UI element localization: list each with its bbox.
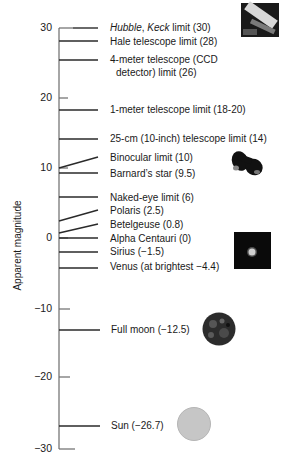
tick-label-20: 20: [22, 91, 52, 103]
tick-label-0: 0: [22, 231, 52, 243]
tick-label-10: 10: [22, 161, 52, 173]
hubble-telescope-image: [241, 1, 279, 37]
full-moon-image: [203, 313, 236, 346]
label-alpha-centauri: Alpha Centauri (0): [110, 233, 191, 244]
label-polaris: Polaris (2.5): [110, 205, 164, 216]
tick-label-neg10: −10: [22, 302, 52, 314]
label-full-moon: Full moon (−12.5): [111, 324, 190, 335]
label-hubble-italic: Hubble: [110, 22, 142, 33]
label-keck-italic: Keck: [147, 22, 169, 33]
tick-label-30: 30: [22, 21, 52, 33]
label-sirius: Sirius (−1.5): [110, 246, 164, 257]
sun-image: [178, 408, 211, 441]
label-4meter-line1: 4-meter telescope (CCD: [110, 54, 218, 65]
label-25cm: 25-cm (10-inch) telescope limit (14): [110, 133, 267, 144]
label-naked-eye: Naked-eye limit (6): [110, 192, 194, 203]
label-venus: Venus (at brightest −4.4): [110, 261, 219, 272]
tick-label-neg30: −30: [22, 442, 52, 454]
label-hubble-keck: Hubble, Keck limit (30): [110, 22, 211, 33]
label-betelgeuse: Betelgeuse (0.8): [110, 219, 183, 230]
binoculars-image: [229, 149, 266, 179]
label-4meter-line2: detector) limit (26): [116, 67, 197, 78]
label-hale: Hale telescope limit (28): [110, 36, 217, 47]
label-sun: Sun (−26.7): [111, 420, 164, 431]
tick-label-neg20: −20: [22, 370, 52, 382]
label-binocular: Binocular limit (10): [110, 152, 193, 163]
label-1meter: 1-meter telescope limit (18-20): [110, 104, 246, 115]
label-hubble-suffix: limit (30): [170, 22, 211, 33]
star-image: [234, 232, 271, 269]
y-axis-title: Apparent magnitude: [12, 196, 23, 296]
object-marker-lines: [59, 28, 100, 426]
label-barnard: Barnard’s star (9.5): [110, 168, 195, 179]
